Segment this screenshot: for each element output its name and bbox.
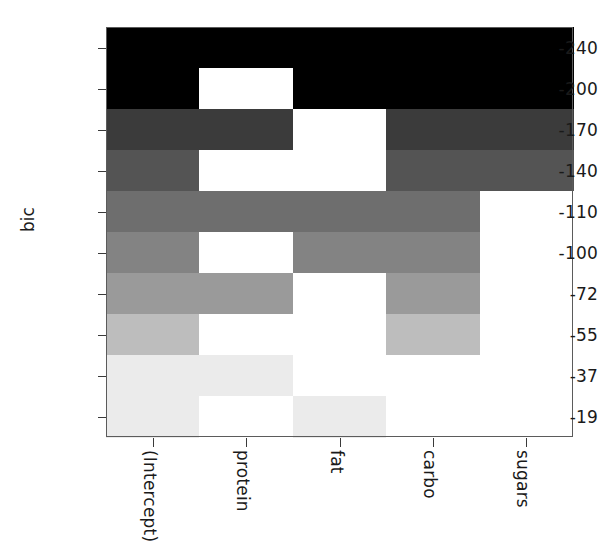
heatmap-cell [199, 232, 293, 274]
y-axis-tick [98, 48, 106, 49]
heatmap-cell [386, 109, 480, 151]
y-axis-tick-label: -72 [506, 284, 598, 304]
y-axis-tick-label: -100 [506, 243, 598, 263]
y-axis-tick-label: -170 [506, 120, 598, 140]
heatmap-grid [106, 27, 573, 437]
y-axis-tick-label: -110 [506, 202, 598, 222]
heatmap-cell [106, 314, 200, 356]
heatmap-cell [293, 191, 387, 233]
y-axis-tick-label: -19 [506, 407, 598, 427]
x-axis-tick-label: protein [233, 450, 253, 512]
heatmap-cell [199, 355, 293, 397]
heatmap-cell [106, 68, 200, 110]
heatmap-cell [386, 150, 480, 192]
y-axis-tick-label: -140 [506, 161, 598, 181]
heatmap-cell [293, 109, 387, 151]
x-axis-tick [340, 438, 341, 447]
x-axis-tick [526, 438, 527, 447]
heatmap-cell [106, 27, 200, 69]
heatmap-cell [106, 109, 200, 151]
y-axis-tick-label: -37 [506, 366, 598, 386]
heatmap-cell [106, 232, 200, 274]
x-axis-tick-label: fat [327, 450, 347, 474]
heatmap-cell [199, 314, 293, 356]
heatmap-cell [293, 232, 387, 274]
regsubsets-bic-plot: -240-200-170-140-110-100-72-55-37-19 bic… [0, 0, 598, 546]
heatmap-cell [106, 273, 200, 315]
y-axis-tick [98, 212, 106, 213]
heatmap-cell [106, 191, 200, 233]
heatmap-cell [293, 355, 387, 397]
x-axis-tick-label: carbo [420, 450, 440, 499]
x-axis-tick [433, 438, 434, 447]
heatmap-cell [386, 191, 480, 233]
heatmap-cell [386, 355, 480, 397]
y-axis-tick-label: -240 [506, 38, 598, 58]
heatmap-cell [199, 191, 293, 233]
y-axis-tick [98, 171, 106, 172]
y-axis-tick [98, 89, 106, 90]
heatmap-cell [199, 68, 293, 110]
heatmap-cell [199, 27, 293, 69]
heatmap-cell [386, 68, 480, 110]
y-axis-tick-label: -200 [506, 79, 598, 99]
heatmap-cell [293, 68, 387, 110]
heatmap-cell [106, 150, 200, 192]
heatmap-cell [386, 27, 480, 69]
heatmap-cell [199, 396, 293, 438]
heatmap-cell [293, 150, 387, 192]
y-axis-title: bic [18, 207, 38, 232]
x-axis-tick-label: sugars [513, 450, 533, 508]
heatmap-cell [293, 314, 387, 356]
heatmap-cell [199, 273, 293, 315]
y-axis-tick [98, 376, 106, 377]
y-axis-tick [98, 294, 106, 295]
y-axis-tick [98, 335, 106, 336]
x-axis-tick [246, 438, 247, 447]
heatmap-cell [106, 355, 200, 397]
y-axis-tick [98, 253, 106, 254]
heatmap-cell [293, 273, 387, 315]
y-axis-tick-label: -55 [506, 325, 598, 345]
heatmap-cell [199, 150, 293, 192]
heatmap-cell [106, 396, 200, 438]
y-axis-tick [98, 417, 106, 418]
x-axis-tick-label: (Intercept) [140, 450, 160, 542]
x-axis-tick [153, 438, 154, 447]
heatmap-cell [199, 109, 293, 151]
heatmap-cell [386, 396, 480, 438]
heatmap-cell [386, 314, 480, 356]
heatmap-cell [293, 396, 387, 438]
heatmap-cell [386, 273, 480, 315]
y-axis-tick [98, 130, 106, 131]
heatmap-cell [386, 232, 480, 274]
heatmap-cell [293, 27, 387, 69]
